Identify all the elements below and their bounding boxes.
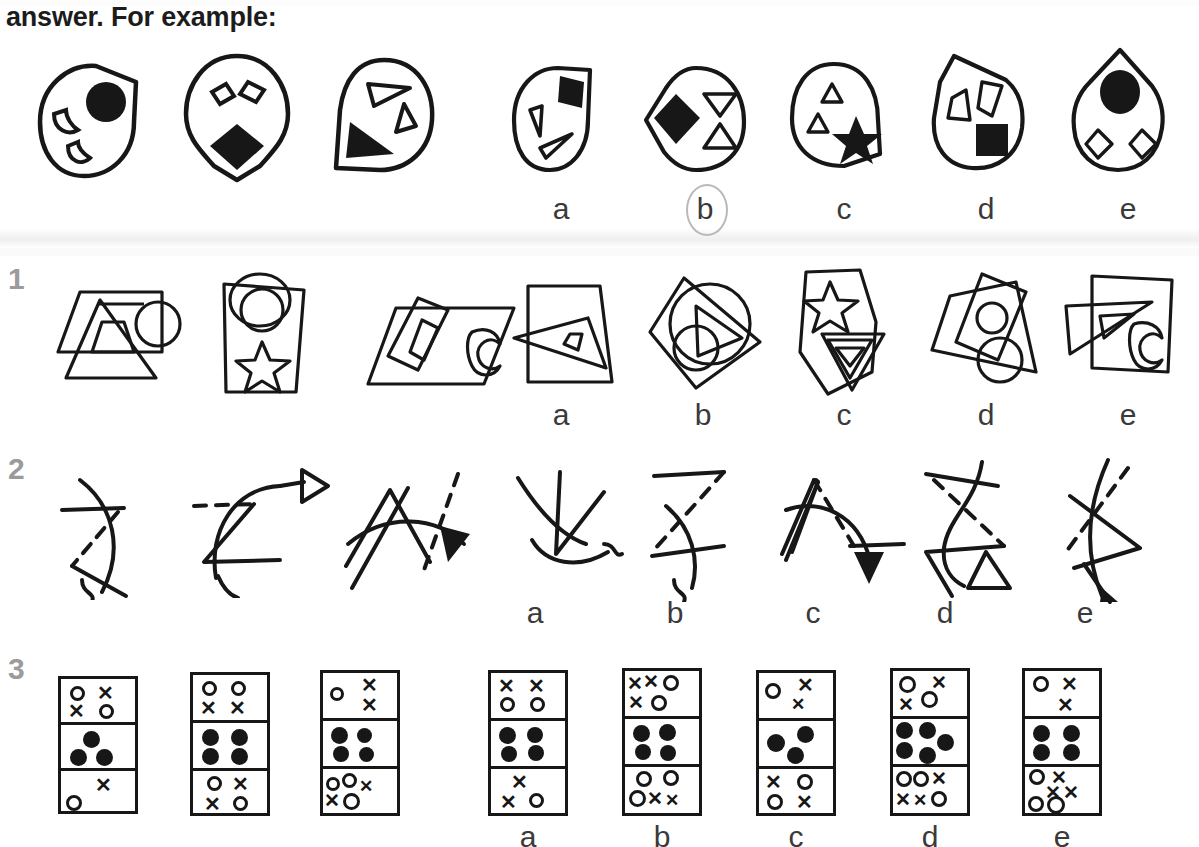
x-mark-icon: ✕ — [498, 676, 515, 696]
x-mark-icon: ✕ — [511, 772, 528, 792]
dot-icon — [202, 748, 219, 765]
dot-icon — [896, 742, 913, 759]
q2-stimulus-1 — [52, 470, 182, 600]
q1-option-c-figure[interactable] — [786, 266, 896, 398]
domino-cell-mid — [759, 721, 833, 769]
x-mark-icon: ✕ — [797, 675, 814, 695]
circle-mark-icon — [529, 793, 544, 808]
dot-icon — [499, 727, 516, 744]
q1-option-a-figure[interactable] — [512, 276, 622, 391]
circle-mark-icon — [330, 687, 344, 701]
x-mark-icon: ✕ — [1057, 695, 1074, 715]
example-option-c-figure[interactable] — [778, 56, 893, 176]
x-mark-icon: ✕ — [500, 792, 517, 812]
circle-mark-icon — [663, 770, 679, 786]
parallelogram-triangle-circle-icon — [52, 278, 192, 393]
q1-option-e-figure[interactable] — [1060, 268, 1185, 386]
dot-icon — [83, 731, 100, 748]
q2-option-letter-c[interactable]: c — [793, 596, 833, 630]
blob-flat-bottom-right-icon — [778, 56, 893, 176]
circle-mark-icon — [231, 681, 246, 696]
q1-option-b-figure[interactable] — [644, 270, 769, 395]
q2-option-letter-e[interactable]: e — [1065, 596, 1105, 630]
example-option-letter-c[interactable]: c — [824, 192, 864, 226]
q3-option-d-figure[interactable]: ✕ ✕ ✕ ✕ ✕ — [890, 668, 970, 816]
domino-cell-top: ✕ ✕ — [193, 675, 267, 723]
curve-dash-open-arrow-icon — [190, 458, 330, 598]
q2-option-a-figure[interactable] — [508, 470, 628, 590]
circle-mark-icon — [765, 683, 781, 699]
q3-option-c-figure[interactable]: ✕ ✕ ✕ ✕ — [756, 670, 836, 816]
dot-icon — [357, 728, 372, 743]
arc-zigzag-hook-icon — [508, 470, 628, 590]
circle-mark-icon — [343, 793, 360, 810]
q1-option-letter-b[interactable]: b — [683, 398, 723, 432]
q2-option-b-figure[interactable] — [648, 462, 758, 602]
dot-icon — [1033, 744, 1050, 761]
dot-icon — [919, 722, 936, 739]
q2-option-e-figure[interactable] — [1060, 456, 1175, 606]
q3-option-letter-a[interactable]: a — [508, 820, 548, 847]
example-option-d-figure[interactable] — [920, 48, 1035, 178]
x-mark-icon: ✕ — [528, 676, 545, 696]
circle-mark-icon — [1047, 796, 1065, 814]
example-option-letter-b-wrapper[interactable]: b — [686, 192, 724, 226]
q1-option-letter-a[interactable]: a — [541, 398, 581, 432]
q2-option-c-figure[interactable] — [780, 468, 910, 598]
x-mark-icon: ✕ — [931, 673, 947, 692]
x-mark-icon: ✕ — [97, 683, 114, 703]
domino-cell-top: ✕ ✕ — [759, 673, 833, 721]
circle-mark-icon — [896, 771, 912, 787]
q2-option-d-figure[interactable] — [920, 456, 1030, 601]
circle-mark-icon — [326, 777, 340, 791]
dot-icon — [767, 734, 785, 752]
example-option-e-figure[interactable] — [1062, 44, 1177, 179]
scan-artifact-band — [0, 228, 1199, 248]
q3-option-e-figure[interactable]: ✕ ✕ ✕ ✕ ✕ — [1022, 668, 1102, 816]
q1-stimulus-3 — [362, 286, 522, 394]
dot-icon — [527, 727, 543, 743]
q2-stimulus-3 — [338, 470, 488, 600]
q3-option-letter-c[interactable]: c — [776, 820, 816, 847]
q3-option-a-figure[interactable]: ✕ ✕ ✕ ✕ — [488, 670, 568, 816]
circle-mark-icon — [636, 771, 652, 787]
q3-option-letter-b[interactable]: b — [642, 820, 682, 847]
example-option-letter-b[interactable]: b — [686, 192, 724, 226]
q1-option-letter-c[interactable]: c — [824, 398, 864, 432]
q2-option-letter-b[interactable]: b — [655, 596, 695, 630]
dot-icon — [331, 727, 348, 744]
example-option-letter-d[interactable]: d — [966, 192, 1006, 226]
example-option-b-figure[interactable] — [638, 58, 758, 178]
q2-option-letter-a[interactable]: a — [515, 596, 555, 630]
rect-triangle-moon-icon — [1060, 268, 1185, 386]
domino-cell-top: ✕ ✕ — [1025, 671, 1099, 719]
q3-option-letter-d[interactable]: d — [910, 820, 950, 847]
domino-cell-top: ✕ ✕ — [61, 679, 135, 725]
dot-icon — [635, 744, 651, 760]
dot-icon — [937, 734, 954, 751]
domino-cell-bot: ✕ ✕ — [193, 771, 267, 819]
x-mark-icon: ✕ — [791, 696, 805, 713]
circle-mark-icon — [1033, 676, 1049, 692]
domino-cell-bot: ✕ ✕ — [323, 769, 397, 817]
example-option-a-figure[interactable] — [500, 58, 610, 178]
circle-mark-icon — [66, 795, 82, 811]
q3-option-b-figure[interactable]: ✕ ✕ ✕ ✕ ✕ — [622, 668, 702, 816]
example-option-letter-e[interactable]: e — [1108, 192, 1148, 226]
row-2-number: 2 — [8, 452, 25, 486]
x-mark-icon: ✕ — [895, 790, 911, 809]
dot-icon — [96, 749, 113, 766]
parallelogram-rect-moon-icon — [362, 286, 522, 394]
q2-option-letter-d[interactable]: d — [925, 596, 965, 630]
example-stimulus-2 — [172, 46, 302, 186]
curve-dash-arrow-icon — [1060, 456, 1175, 606]
domino-cell-top: ✕ ✕ — [893, 671, 967, 719]
q1-option-d-figure[interactable] — [924, 268, 1049, 393]
dot-icon — [1033, 725, 1050, 742]
circle-mark-icon — [530, 697, 545, 712]
q1-option-letter-e[interactable]: e — [1108, 398, 1148, 432]
example-option-letter-a[interactable]: a — [541, 192, 581, 226]
row-1-number: 1 — [8, 262, 25, 296]
q3-option-letter-e[interactable]: e — [1042, 820, 1082, 847]
q1-option-letter-d[interactable]: d — [966, 398, 1006, 432]
